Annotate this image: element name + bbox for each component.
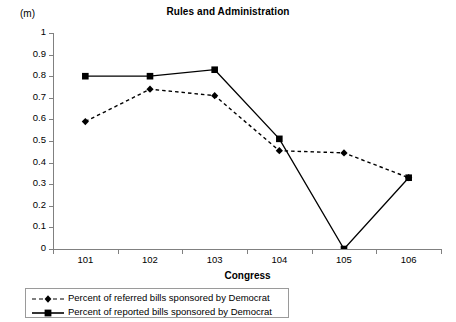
data-point-square-marker: [276, 136, 283, 143]
x-axis-title: Congress: [53, 270, 442, 281]
y-tick-label: 0.1: [0, 221, 46, 231]
legend-key-dashed-diamond-icon: [31, 291, 65, 303]
data-point-square-marker: [341, 246, 348, 249]
y-tick-label: 1: [0, 27, 46, 37]
y-axis-unit-label: (m): [20, 8, 35, 19]
x-tick-mark: [247, 250, 248, 254]
x-tick-mark: [376, 250, 377, 254]
legend-label: Percent of reported bills sponsored by D…: [65, 306, 272, 317]
series-line: [85, 89, 408, 178]
data-point-diamond-marker: [211, 92, 218, 99]
x-tick-label: 103: [182, 255, 247, 265]
legend-item-referred: Percent of referred bills sponsored by D…: [31, 290, 270, 304]
x-tick-mark: [441, 250, 442, 254]
x-tick-label: 106: [376, 255, 441, 265]
x-tick-label: 101: [53, 255, 118, 265]
legend-key-solid-square-icon: [31, 305, 65, 317]
x-tick-mark: [118, 250, 119, 254]
y-tick-label: 0.2: [0, 200, 46, 210]
data-point-diamond-marker: [82, 118, 89, 125]
legend-label: Percent of referred bills sponsored by D…: [65, 292, 270, 303]
x-tick-mark: [312, 250, 313, 254]
y-tick-label: 0.6: [0, 113, 46, 123]
y-tick-label: 0: [0, 243, 46, 253]
chart-legend: Percent of referred bills sponsored by D…: [25, 288, 289, 318]
data-point-diamond-marker: [276, 147, 283, 154]
y-tick-label: 0.5: [0, 135, 46, 145]
data-point-square-marker: [211, 66, 218, 73]
chart-figure: Rules and Administration (m) 10.90.80.70…: [0, 0, 456, 322]
x-tick-label: 105: [312, 255, 377, 265]
x-tick-mark: [53, 250, 54, 254]
x-tick-label: 102: [118, 255, 183, 265]
y-tick-label: 0.4: [0, 157, 46, 167]
y-tick-label: 0.8: [0, 70, 46, 80]
data-point-square-marker: [405, 174, 412, 181]
y-tick-label: 0.9: [0, 49, 46, 59]
legend-item-reported: Percent of reported bills sponsored by D…: [31, 304, 272, 318]
x-tick-mark: [182, 250, 183, 254]
series-lines: [53, 33, 441, 249]
data-point-diamond-marker: [146, 86, 153, 93]
y-tick-label: 0.3: [0, 178, 46, 188]
plot-area: [53, 33, 441, 249]
y-tick-label: 0.7: [0, 92, 46, 102]
data-point-square-marker: [82, 73, 89, 80]
chart-title: Rules and Administration: [0, 6, 456, 17]
x-tick-label: 104: [247, 255, 312, 265]
data-point-diamond-marker: [340, 149, 347, 156]
data-point-square-marker: [147, 73, 154, 80]
